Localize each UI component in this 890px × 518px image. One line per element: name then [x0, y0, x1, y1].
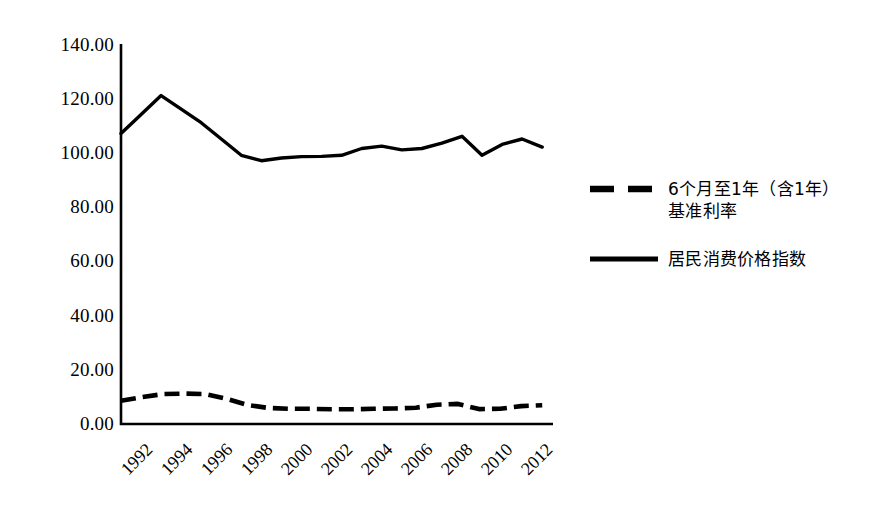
x-tick-label: 2010 — [466, 440, 515, 489]
chart-legend: 6个月至1年（含1年） 基准利率 居民消费价格指数 — [588, 178, 888, 296]
dashed-line-swatch-icon — [588, 178, 660, 200]
x-tick-label: 2008 — [426, 440, 475, 489]
x-tick-label: 2004 — [346, 440, 395, 489]
x-tick-label: 1996 — [186, 440, 235, 489]
x-tick-label: 2012 — [506, 440, 555, 489]
x-tick-label: 1998 — [226, 440, 275, 489]
legend-label-cpi: 居民消费价格指数 — [668, 248, 806, 270]
x-tick-label: 1994 — [146, 440, 195, 489]
x-tick-label: 2006 — [386, 440, 435, 489]
x-tick-label: 2002 — [306, 440, 355, 489]
legend-item-cpi: 居民消费价格指数 — [588, 248, 888, 270]
line-chart: 140.00 120.00 100.00 80.00 60.00 40.00 2… — [0, 0, 890, 518]
legend-item-interest-rate: 6个月至1年（含1年） 基准利率 — [588, 178, 888, 222]
x-tick-label: 2000 — [266, 440, 315, 489]
x-tick-label: 1992 — [106, 440, 155, 489]
solid-line-swatch-icon — [588, 248, 660, 270]
legend-label-interest-rate: 6个月至1年（含1年） 基准利率 — [668, 178, 840, 222]
